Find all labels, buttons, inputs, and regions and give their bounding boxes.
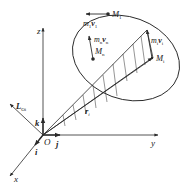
position-vector-label: ri [85, 106, 90, 117]
origin-label: O [44, 137, 51, 147]
x-axis-label: x [13, 174, 18, 184]
momentum-vector-mn [89, 36, 93, 59]
unit-k-label: k [35, 118, 40, 128]
unit-i-label: i [35, 147, 38, 157]
momentum-label-mn: mnvn [94, 35, 109, 45]
position-vector-ri [43, 58, 152, 135]
y-axis-label: y [150, 138, 155, 148]
particle-label-Mn: Mn [94, 46, 105, 57]
particle-label-Mi: Mi [155, 53, 165, 64]
angular-momentum-diagram: z y x O k j i LOi ri M1 m1v1 mnvn Mn miv… [0, 0, 188, 187]
unit-j-label: j [54, 139, 59, 149]
momentum-label-m1: m1v1 [83, 19, 98, 29]
particle-point-Mi [151, 57, 153, 59]
unit-i-arrow [35, 135, 43, 145]
angular-momentum-label: LOi [15, 101, 27, 112]
z-axis-label: z [36, 26, 41, 36]
particle-label-M1: M1 [111, 9, 122, 20]
momentum-label-mi: mivi [151, 36, 164, 46]
